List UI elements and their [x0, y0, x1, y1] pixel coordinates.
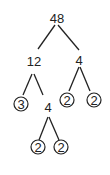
node-2-prime-b: 2	[87, 93, 101, 108]
node-root: 48	[50, 11, 64, 26]
edge-root-left	[38, 25, 55, 49]
edge-12-4	[34, 74, 43, 95]
node-2-prime-d: 2	[54, 140, 68, 155]
node-2-prime-c: 2	[31, 140, 45, 155]
factor-tree: 48 12 4 3 4 2 2 2 2	[0, 0, 110, 175]
node-4-right: 4	[75, 53, 82, 68]
edge-4-2a	[69, 67, 79, 91]
svg-text:2: 2	[34, 140, 41, 155]
edge-4b-2a	[39, 117, 48, 140]
node-2-prime-a: 2	[60, 93, 74, 108]
svg-text:3: 3	[17, 97, 24, 112]
edge-root-right	[58, 25, 79, 50]
svg-text:2: 2	[90, 93, 97, 108]
node-3-prime: 3	[14, 97, 28, 112]
edge-12-3	[23, 74, 32, 95]
svg-text:2: 2	[63, 93, 70, 108]
node-4-middle: 4	[44, 100, 51, 115]
edge-4-2b	[80, 67, 90, 91]
edge-4b-2b	[49, 117, 59, 140]
node-12: 12	[27, 54, 41, 69]
svg-text:2: 2	[57, 140, 64, 155]
